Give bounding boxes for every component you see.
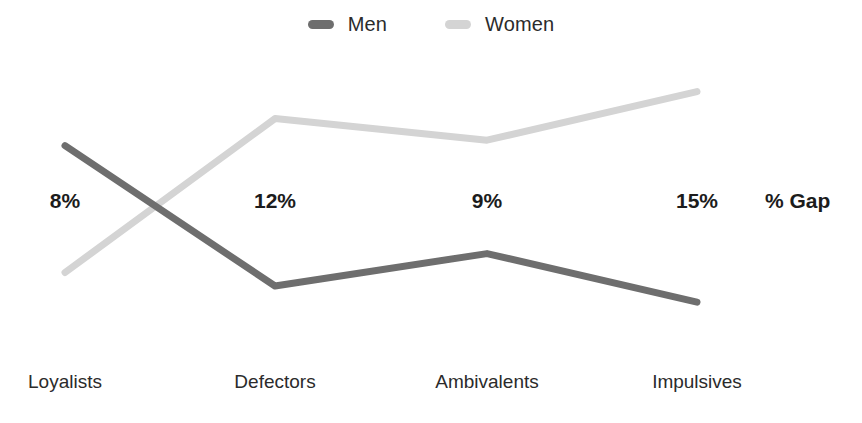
women-line: [65, 92, 697, 273]
category-label-ambivalents: Ambivalents: [435, 372, 539, 391]
category-label-impulsives: Impulsives: [652, 372, 742, 391]
gap-value-loyalists: 8%: [50, 190, 80, 211]
gap-row-label: % Gap: [765, 190, 830, 211]
gap-line-chart: Men Women 8% 12% 9% 15% % Gap Loyalists …: [0, 0, 862, 423]
men-line: [65, 146, 697, 303]
category-label-loyalists: Loyalists: [28, 372, 102, 391]
category-label-defectors: Defectors: [234, 372, 315, 391]
gap-value-impulsives: 15%: [676, 190, 718, 211]
gap-value-ambivalents: 9%: [472, 190, 502, 211]
plot-area: [0, 0, 862, 423]
gap-value-defectors: 12%: [254, 190, 296, 211]
